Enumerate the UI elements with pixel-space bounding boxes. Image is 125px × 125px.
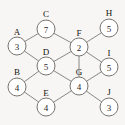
node-value-i: 5 [107, 63, 112, 73]
graph-node-j[interactable]: J3 [100, 87, 118, 116]
nodes-layer: A3C7D5B4E4F2G4H5I5J3 [8, 8, 118, 116]
node-label-b: B [14, 67, 20, 77]
node-label-j: J [107, 87, 111, 97]
node-value-h: 5 [107, 24, 112, 34]
graph-edge [54, 33, 71, 42]
graph-edge [54, 51, 71, 61]
node-label-e: E [43, 88, 49, 98]
graph-node-b[interactable]: B4 [8, 67, 26, 96]
edges-layer [24, 33, 101, 102]
graph-edge [24, 92, 38, 102]
graph-edge [86, 91, 101, 102]
node-value-f: 2 [77, 43, 82, 53]
graph-edge [25, 34, 38, 42]
node-label-a: A [14, 27, 21, 37]
graph-edge [87, 72, 102, 81]
node-value-c: 7 [44, 25, 49, 35]
graph-node-g[interactable]: G4 [70, 67, 88, 95]
graph-node-d[interactable]: D5 [37, 47, 55, 75]
node-label-f: F [76, 28, 81, 38]
graph-node-a[interactable]: A3 [8, 27, 26, 55]
graph-node-h[interactable]: H5 [100, 8, 118, 37]
node-value-b: 4 [15, 83, 20, 93]
graph-diagram: A3C7D5B4E4F2G4H5I5J3 [0, 0, 125, 125]
graph-edge [86, 52, 101, 62]
node-value-e: 4 [44, 103, 49, 113]
graph-node-e[interactable]: E4 [37, 88, 55, 116]
node-value-j: 3 [107, 103, 112, 113]
node-value-g: 4 [77, 82, 82, 92]
node-label-h: H [106, 8, 113, 18]
graph-edge [24, 71, 38, 81]
graph-edge [24, 51, 38, 61]
graph-edge [54, 91, 72, 102]
node-label-c: C [43, 9, 49, 19]
node-label-i: I [108, 48, 111, 58]
graph-node-c[interactable]: C7 [37, 9, 55, 38]
node-value-d: 5 [44, 62, 49, 72]
graph-node-i[interactable]: I5 [100, 48, 118, 76]
node-label-d: D [43, 47, 50, 57]
graph-node-f[interactable]: F2 [70, 28, 88, 56]
node-label-g: G [76, 67, 83, 77]
node-value-a: 3 [15, 42, 20, 52]
graph-edge [87, 33, 102, 42]
graph-edge [54, 71, 72, 82]
graph-canvas: A3C7D5B4E4F2G4H5I5J3 [0, 0, 125, 125]
